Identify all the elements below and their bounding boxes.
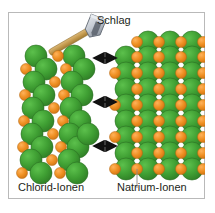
sodium-ion <box>53 51 64 62</box>
sodium-ion <box>132 84 143 95</box>
sodium-ion <box>176 148 187 159</box>
chloride-ion <box>77 123 99 145</box>
sodium-ion <box>132 148 143 159</box>
sodium-ion <box>154 37 165 48</box>
sodium-ion <box>110 164 121 175</box>
sodium-ion <box>176 52 187 63</box>
figure-stage <box>8 12 205 199</box>
sodium-ion <box>176 164 187 175</box>
left-lattice <box>17 45 100 184</box>
ionic-lattice-figure: Schlag Chlorid-Ionen Natrium-Ionen <box>0 0 215 213</box>
sodium-ion <box>48 129 59 140</box>
sodium-ion <box>176 100 187 111</box>
chlorid-ionen-label: Chlorid-Ionen <box>18 182 84 193</box>
figure-caption <box>9 203 209 212</box>
sodium-ion <box>154 52 165 63</box>
sodium-ion <box>17 168 28 179</box>
sodium-ion <box>110 132 121 143</box>
sodium-ion <box>49 103 60 114</box>
schlag-label: Schlag <box>97 15 131 26</box>
sodium-ion <box>132 68 143 79</box>
sodium-ion <box>154 148 165 159</box>
natrium-ionen-label: Natrium-Ionen <box>117 182 187 193</box>
sodium-ion <box>154 84 165 95</box>
sodium-ion <box>176 132 187 143</box>
sodium-ion <box>176 84 187 95</box>
sodium-ion <box>50 77 61 88</box>
sodium-ion <box>154 100 165 111</box>
sodium-ion <box>154 116 165 127</box>
sodium-ion <box>132 37 143 48</box>
sodium-ion <box>154 164 165 175</box>
sodium-ion <box>154 132 165 143</box>
sodium-ion <box>132 132 143 143</box>
sodium-ion <box>176 37 187 48</box>
right-lattice <box>110 31 206 180</box>
sodium-ion <box>154 68 165 79</box>
sodium-ion <box>110 68 121 79</box>
sodium-ion <box>132 52 143 63</box>
sodium-ion <box>47 155 58 166</box>
sodium-ion <box>176 68 187 79</box>
sodium-ion <box>132 100 143 111</box>
sodium-ion <box>176 116 187 127</box>
sodium-ion <box>55 168 66 179</box>
lattice-svg <box>8 12 205 199</box>
sodium-ion <box>132 116 143 127</box>
